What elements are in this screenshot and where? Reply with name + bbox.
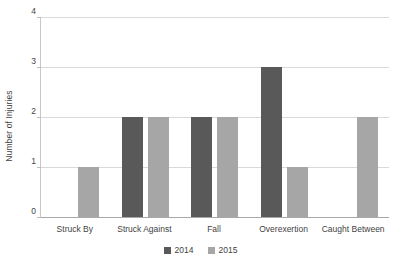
bar-group: [180, 17, 250, 217]
bar-slot: [78, 17, 99, 217]
y-axis-tick: [37, 217, 41, 218]
x-axis-tick-label: Overexertion: [249, 222, 319, 236]
chart-legend: 20142015: [0, 243, 401, 257]
bar-group: [111, 17, 181, 217]
bar[interactable]: [217, 117, 238, 217]
y-axis-tick-label: 2: [20, 106, 36, 116]
bar-slot: [331, 17, 352, 217]
bar-slot: [52, 17, 73, 217]
y-axis-tick-label: 4: [20, 6, 36, 16]
x-axis-tick-label: Fall: [179, 222, 249, 236]
bar-slot: [287, 17, 308, 217]
bar-slot: [217, 17, 238, 217]
bar-group: [319, 17, 389, 217]
bar-slot: [148, 17, 169, 217]
legend-swatch-icon: [208, 247, 215, 254]
bar-group: [250, 17, 320, 217]
legend-label: 2015: [219, 245, 238, 255]
bar-slot: [122, 17, 143, 217]
bar[interactable]: [261, 67, 282, 217]
y-axis-title: Number of Injuries: [0, 18, 18, 234]
bar[interactable]: [191, 117, 212, 217]
x-axis-tick-label: Caught Between: [318, 222, 388, 236]
bar-group: [41, 17, 111, 217]
legend-item[interactable]: 2015: [208, 245, 238, 255]
legend-item[interactable]: 2014: [164, 245, 194, 255]
bar-chart: Number of Injuries 01234 Struck ByStruck…: [0, 0, 401, 267]
x-axis-tick-label: Struck By: [40, 222, 110, 236]
bar-slot: [357, 17, 378, 217]
bar[interactable]: [78, 167, 99, 217]
plot-area: [40, 17, 389, 218]
bar-slot: [261, 17, 282, 217]
bar-groups: [41, 17, 389, 217]
bar-slot: [191, 17, 212, 217]
legend-swatch-icon: [164, 247, 171, 254]
x-axis-tick-label: Struck Against: [110, 222, 180, 236]
y-axis-tick-labels: 01234: [20, 11, 36, 223]
bar[interactable]: [287, 167, 308, 217]
y-axis-tick-label: 3: [20, 56, 36, 66]
legend-label: 2014: [175, 245, 194, 255]
y-axis-tick-label: 1: [20, 156, 36, 166]
x-axis-tick-labels: Struck ByStruck AgainstFallOverexertionC…: [40, 222, 388, 236]
bar[interactable]: [148, 117, 169, 217]
y-axis-tick-label: 0: [20, 206, 36, 216]
bar[interactable]: [122, 117, 143, 217]
bar[interactable]: [357, 117, 378, 217]
